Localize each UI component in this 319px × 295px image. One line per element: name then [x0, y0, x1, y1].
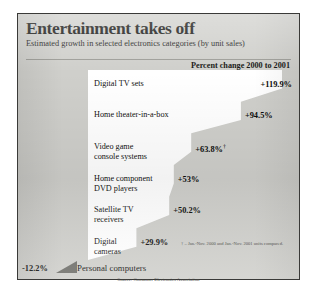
bar-wedge-shape — [18, 70, 301, 260]
page-title: Entertainment takes off — [26, 19, 291, 38]
bar-value-label: +119.9% — [260, 80, 292, 89]
bar-value-label: +94.5% — [245, 111, 273, 120]
bar-value-label: +63.8%† — [195, 143, 226, 154]
header-divider — [26, 59, 291, 60]
bar-category-label: Satellite TVreceivers — [94, 206, 134, 225]
bar-category-label: Home componentDVD players — [94, 175, 152, 194]
bar-category-label: Digital TV sets — [94, 80, 144, 89]
bar-category-line: Digital TV sets — [94, 80, 144, 89]
bar-category-line: Home theater-in-a-box — [94, 111, 169, 120]
bar-value-label: +53% — [178, 175, 200, 184]
column-header: Percent change 2000 to 2001 — [191, 61, 290, 70]
bar-category-line: Digital — [94, 238, 121, 247]
footnote: † – Jan.-Nov. 2000 and Jan.-Nov. 2001 un… — [181, 241, 291, 247]
bar-category-line: console systems — [94, 153, 147, 162]
bar-value-label: +29.9% — [140, 238, 168, 247]
bar-category-line: Satellite TV — [94, 206, 134, 215]
source-line: Source: Consumer Electronics Association — [18, 277, 299, 282]
bar-chart: Digital TV sets+119.9%Home theater-in-a-… — [18, 70, 301, 260]
bar-category-label: Video gameconsole systems — [94, 143, 147, 162]
bar-category-label: Digitalcameras — [94, 238, 121, 257]
negative-bar-category: Personal computers — [77, 263, 146, 273]
bar-category-line: DVD players — [94, 185, 152, 194]
bar-category-line: Home component — [94, 175, 152, 184]
header: Entertainment takes off Estimated growth… — [26, 19, 291, 49]
bar-category-line: cameras — [94, 248, 121, 257]
bar-category-label: Home theater-in-a-box — [94, 111, 169, 120]
bar-value-label: +50.2% — [173, 206, 201, 215]
bar-category-line: receivers — [94, 216, 134, 225]
infographic-frame: Entertainment takes off Estimated growth… — [17, 13, 300, 280]
subtitle: Estimated growth in selected electronics… — [26, 39, 291, 49]
bar-category-line: Video game — [94, 143, 147, 152]
negative-bar-value: -12.2% — [22, 264, 48, 273]
footnote-marker: † — [223, 143, 226, 149]
negative-bar — [56, 260, 78, 274]
